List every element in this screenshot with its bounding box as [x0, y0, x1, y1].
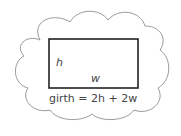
diagram-canvas — [0, 0, 181, 136]
width-label: w — [91, 73, 100, 84]
height-label: h — [56, 57, 63, 68]
girth-formula: girth = 2h + 2w — [49, 93, 137, 104]
